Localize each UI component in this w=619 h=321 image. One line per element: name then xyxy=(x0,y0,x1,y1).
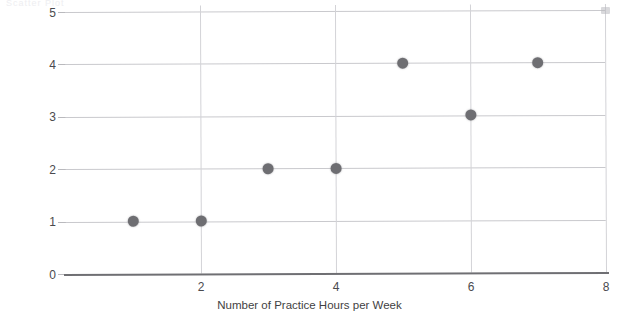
y-tick-label-4: 4 xyxy=(26,58,56,72)
stray-mark xyxy=(600,6,609,13)
gridline-x-4 xyxy=(335,5,337,273)
scatter-plot-figure: Scatter Plot Goals Scored in Game 012345… xyxy=(0,0,619,321)
data-point xyxy=(397,58,408,69)
y-tick-label-5: 5 xyxy=(26,6,56,20)
data-point xyxy=(263,163,274,174)
x-tick-label-8: 8 xyxy=(591,280,619,294)
axis-baseline xyxy=(64,272,609,276)
x-tick-label-4: 4 xyxy=(321,280,351,294)
plot-area xyxy=(65,10,606,274)
x-tick-label-2: 2 xyxy=(186,280,216,294)
data-point xyxy=(465,110,476,121)
gridline-x-8 xyxy=(605,4,607,272)
y-tick-label-0: 0 xyxy=(26,268,56,282)
gridline-x-6 xyxy=(470,4,472,272)
data-point xyxy=(330,163,341,174)
data-point xyxy=(128,216,139,227)
y-tick-label-2: 2 xyxy=(26,163,56,177)
data-point xyxy=(195,216,206,227)
gridline-x-2 xyxy=(200,5,202,273)
y-tick-label-1: 1 xyxy=(26,215,56,229)
data-point xyxy=(532,57,543,68)
x-tick-label-6: 6 xyxy=(456,280,486,294)
x-axis-title: Number of Practice Hours per Week xyxy=(0,299,619,311)
y-tick-label-3: 3 xyxy=(26,110,56,124)
